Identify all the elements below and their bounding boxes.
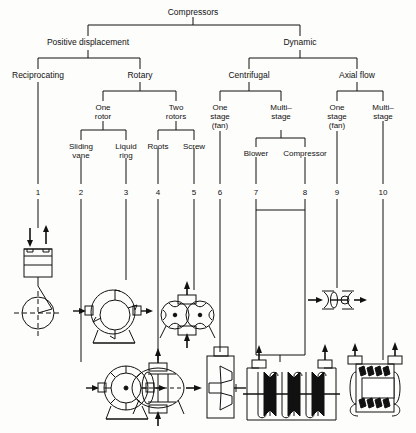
connector-two-rotors (158, 121, 194, 140)
connector-centrifugal (220, 82, 281, 101)
node-axial-one-stage: One stage (fan) (327, 103, 347, 130)
leaf-stems-lower (38, 199, 383, 362)
machine-9-axial-fan (308, 291, 367, 309)
multistage-bracket (256, 210, 305, 362)
connector-dynamic (249, 50, 357, 69)
diagram-canvas (0, 0, 416, 433)
node-centrifugal-multi-stage: Multi– stage (270, 103, 291, 121)
leaf-number-7: 7 (254, 188, 258, 197)
node-dynamic: Dynamic (283, 38, 316, 47)
leaf-number-4: 4 (156, 188, 160, 197)
leaf-number-9: 9 (335, 188, 339, 197)
connector-root (88, 17, 300, 36)
node-liquid-ring: Liquid ring (115, 142, 136, 160)
leaf-number-2: 2 (79, 188, 83, 197)
machine-5-screw (132, 348, 184, 426)
machine-10-axial-multistage (348, 342, 402, 416)
node-axial-flow: Axial flow (339, 71, 375, 80)
leaf-number-8: 8 (303, 188, 307, 197)
machine-1-reciprocating (14, 225, 62, 337)
connector-one-rotor (81, 121, 126, 140)
node-one-rotor: One rotor (95, 103, 111, 121)
connector-positive-displacement (38, 50, 140, 69)
machine-2-sliding-vane (73, 290, 153, 343)
leaf-number-3: 3 (124, 188, 128, 197)
connector-centrifugal-multistage (256, 130, 305, 147)
node-centrifugal: Centrifugal (228, 71, 269, 80)
leaf-number-6: 6 (218, 188, 222, 197)
node-positive-displacement: Positive displacement (47, 38, 129, 47)
node-compressor: Compressor (283, 149, 327, 158)
node-centrifugal-one-stage: One stage (fan) (210, 103, 230, 130)
connector-rotary (103, 82, 176, 101)
leaf-number-10: 10 (379, 188, 388, 197)
leaf-number-5: 5 (192, 188, 196, 197)
node-axial-multi-stage: Multi– stage (372, 103, 393, 121)
machine-4-roots (160, 281, 215, 348)
node-sliding-vane: Sliding vane (69, 142, 93, 160)
machine-6-centrifugal-fan (186, 347, 246, 418)
node-screw: Screw (183, 142, 205, 151)
compressor-classification-chart: Compressors Positive displacement Dynami… (0, 0, 416, 433)
leaf-stems-upper (38, 82, 383, 184)
connector-axial-flow (337, 82, 383, 101)
node-reciprocating: Reciprocating (12, 71, 64, 80)
node-compressors: Compressors (168, 8, 219, 17)
leaf-number-1: 1 (36, 188, 40, 197)
node-two-rotors: Two rotors (166, 103, 186, 121)
node-roots: Roots (148, 142, 169, 151)
node-blower: Blower (244, 149, 268, 158)
node-rotary: Rotary (127, 71, 152, 80)
